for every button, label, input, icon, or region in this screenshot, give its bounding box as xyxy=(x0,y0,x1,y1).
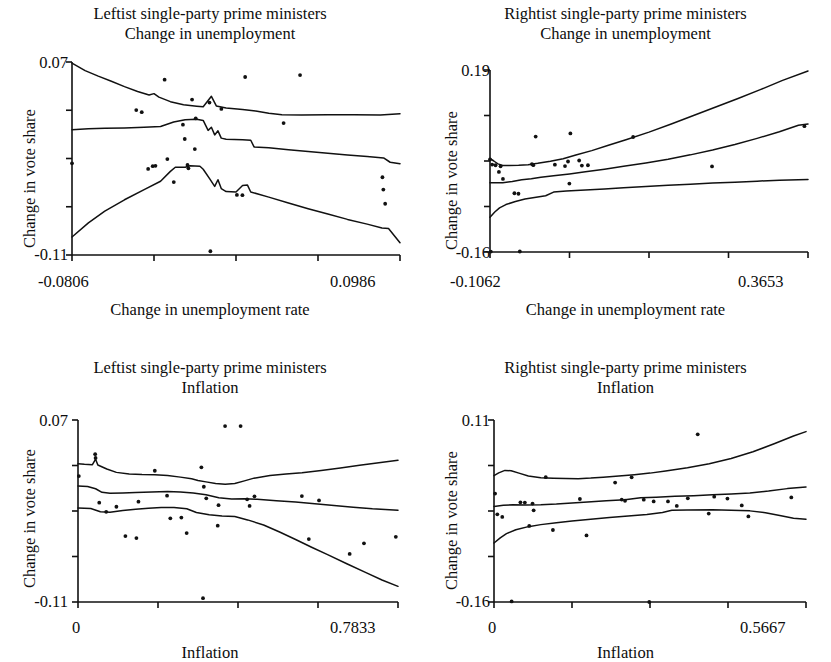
panel-rightist-unemployment: Rightist single-party prime ministers Ch… xyxy=(420,0,831,330)
panel-leftist-inflation: Leftist single-party prime ministers Inf… xyxy=(0,340,420,657)
plot-area xyxy=(420,340,831,657)
plot-area xyxy=(0,0,420,330)
panel-leftist-unemployment: Leftist single-party prime ministers Cha… xyxy=(0,0,420,330)
plot-area xyxy=(420,0,831,330)
panel-rightist-inflation: Rightist single-party prime ministers In… xyxy=(420,340,831,657)
plot-area xyxy=(0,340,420,657)
